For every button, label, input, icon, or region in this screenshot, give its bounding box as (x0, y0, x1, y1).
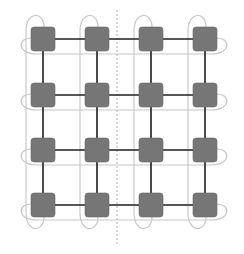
node-r2-c1 (31, 83, 55, 107)
node-r1-c1 (31, 27, 55, 51)
torus-diagram (0, 0, 244, 254)
node-r1-c2 (85, 27, 109, 51)
node-r2-c2 (85, 83, 109, 107)
nodes (31, 27, 217, 217)
node-r2-c3 (139, 83, 163, 107)
node-r4-c1 (31, 193, 55, 217)
node-r4-c4 (193, 193, 217, 217)
node-r4-c2 (85, 193, 109, 217)
node-r3-c3 (139, 138, 163, 162)
node-r3-c1 (31, 138, 55, 162)
node-r4-c3 (139, 193, 163, 217)
node-r2-c4 (193, 83, 217, 107)
node-r3-c4 (193, 138, 217, 162)
node-r1-c4 (193, 27, 217, 51)
node-r3-c2 (85, 138, 109, 162)
node-r1-c3 (139, 27, 163, 51)
mesh-links (43, 39, 205, 205)
